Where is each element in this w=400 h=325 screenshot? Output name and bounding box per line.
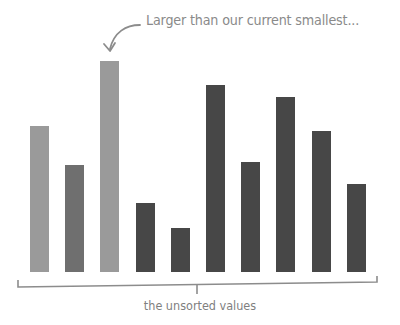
unsorted-values-diagram: Larger than our current smallest... the … [0,0,400,325]
bracket-caption: the unsorted values [20,298,380,313]
range-bracket [0,0,400,325]
